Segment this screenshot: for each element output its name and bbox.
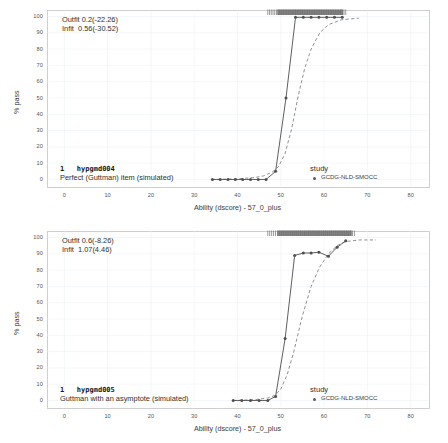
y-tick-label: 60 bbox=[21, 299, 43, 305]
fit-statistics: Outfit 0.2(-22.26) Infit 0.56(-30.52) bbox=[62, 15, 118, 34]
data-point bbox=[232, 399, 235, 402]
x-axis-title: Ability (dscore) - 57_0_plus bbox=[47, 424, 428, 433]
x-tick-label: 0 bbox=[52, 413, 76, 419]
model-curve bbox=[233, 240, 376, 401]
data-point bbox=[241, 178, 244, 181]
x-tick-label: 70 bbox=[355, 192, 379, 198]
item-description: Perfect (Guttman) item (simulated) bbox=[60, 173, 173, 182]
legend-title: study bbox=[310, 164, 328, 173]
item-description: Guttman with an asymptote (simulated) bbox=[60, 394, 189, 403]
data-point bbox=[327, 255, 330, 258]
data-point bbox=[284, 337, 287, 340]
legend-marker-point bbox=[313, 177, 316, 180]
data-point bbox=[219, 178, 222, 181]
observed-curve bbox=[212, 17, 342, 179]
y-tick-label: 10 bbox=[21, 381, 43, 387]
x-tick-label: 80 bbox=[399, 192, 423, 198]
legend-entry-label: GCDG-NLD-SMOCC bbox=[321, 174, 377, 180]
data-point bbox=[258, 399, 261, 402]
x-tick-label: 60 bbox=[312, 192, 336, 198]
data-point bbox=[249, 399, 252, 402]
x-tick-label: 50 bbox=[269, 192, 293, 198]
y-axis-title: % pass bbox=[12, 311, 21, 335]
legend-marker-point bbox=[313, 398, 316, 401]
x-tick-label: 10 bbox=[96, 413, 120, 419]
data-point bbox=[336, 246, 339, 249]
x-tick-label: 70 bbox=[355, 413, 379, 419]
x-tick-label: 80 bbox=[399, 413, 423, 419]
x-tick-label: 40 bbox=[226, 413, 250, 419]
panel-hypgmd004: 010203040506070809010001020304050607080%… bbox=[0, 0, 448, 221]
x-tick-label: 30 bbox=[182, 192, 206, 198]
x-tick-label: 50 bbox=[269, 413, 293, 419]
y-tick-label: 60 bbox=[21, 78, 43, 84]
data-point bbox=[284, 97, 287, 100]
y-tick-label: 70 bbox=[21, 283, 43, 289]
x-axis-title: Ability (dscore) - 57_0_plus bbox=[47, 203, 428, 212]
y-tick-label: 20 bbox=[21, 143, 43, 149]
legend-entry-label: GCDG-NLD-SMOCC bbox=[321, 395, 377, 401]
y-tick-label: 50 bbox=[21, 316, 43, 322]
y-tick-label: 90 bbox=[21, 250, 43, 256]
y-tick-label: 0 bbox=[21, 397, 43, 403]
x-tick-label: 20 bbox=[139, 413, 163, 419]
item-identifier: 1 hypgmd005 bbox=[60, 386, 115, 394]
data-point bbox=[294, 16, 297, 19]
item-identifier: 1 hypgmd004 bbox=[60, 165, 115, 173]
data-point bbox=[325, 16, 328, 19]
data-point bbox=[240, 399, 243, 402]
data-point bbox=[333, 16, 336, 19]
data-point bbox=[317, 251, 320, 254]
fit-statistics: Outfit 0.6(-8.26) Infit 1.07(4.46) bbox=[62, 236, 114, 255]
data-point bbox=[257, 178, 260, 181]
data-point bbox=[341, 16, 344, 19]
data-point bbox=[310, 16, 313, 19]
y-tick-label: 100 bbox=[21, 234, 43, 240]
data-point bbox=[266, 399, 269, 402]
x-tick-label: 30 bbox=[182, 413, 206, 419]
x-tick-label: 40 bbox=[226, 192, 250, 198]
y-tick-label: 10 bbox=[21, 160, 43, 166]
y-axis-title: % pass bbox=[12, 90, 21, 114]
data-point bbox=[249, 178, 252, 181]
data-point bbox=[234, 178, 237, 181]
data-point bbox=[310, 252, 313, 255]
y-tick-label: 80 bbox=[21, 46, 43, 52]
y-tick-label: 0 bbox=[21, 176, 43, 182]
data-point bbox=[344, 239, 347, 242]
panel-hypgmd005: 010203040506070809010001020304050607080%… bbox=[0, 221, 448, 442]
data-point bbox=[302, 16, 305, 19]
y-tick-label: 70 bbox=[21, 62, 43, 68]
y-tick-label: 90 bbox=[21, 29, 43, 35]
y-tick-label: 80 bbox=[21, 267, 43, 273]
y-tick-label: 40 bbox=[21, 332, 43, 338]
y-tick-label: 100 bbox=[21, 13, 43, 19]
data-point bbox=[265, 178, 268, 181]
data-point bbox=[317, 16, 320, 19]
y-tick-label: 40 bbox=[21, 111, 43, 117]
x-tick-label: 20 bbox=[139, 192, 163, 198]
y-tick-label: 20 bbox=[21, 364, 43, 370]
data-point bbox=[274, 170, 277, 173]
y-tick-label: 30 bbox=[21, 127, 43, 133]
legend-title: study bbox=[310, 385, 328, 394]
data-point bbox=[293, 254, 296, 257]
x-tick-label: 60 bbox=[312, 413, 336, 419]
data-point bbox=[211, 178, 214, 181]
data-point bbox=[274, 395, 277, 398]
x-tick-label: 0 bbox=[52, 192, 76, 198]
observed-curve bbox=[233, 241, 346, 401]
y-tick-label: 30 bbox=[21, 348, 43, 354]
y-tick-label: 50 bbox=[21, 95, 43, 101]
x-tick-label: 10 bbox=[96, 192, 120, 198]
data-point bbox=[302, 252, 305, 255]
data-point bbox=[226, 178, 229, 181]
